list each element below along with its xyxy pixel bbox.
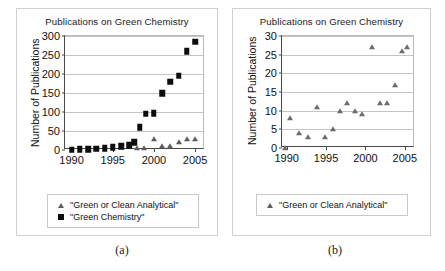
y-axis-tick-label: 15 xyxy=(265,86,277,98)
gridline xyxy=(282,36,413,37)
data-point xyxy=(305,134,311,139)
y-axis-tick-label: 250 xyxy=(42,49,60,61)
figure-container: Publications on Green Chemistry Number o… xyxy=(0,0,445,271)
data-point xyxy=(69,146,75,153)
x-axis-tick xyxy=(365,146,366,150)
chart-panel-a: Publications on Green Chemistry Number o… xyxy=(16,8,218,236)
x-axis-tick xyxy=(405,146,406,150)
data-point xyxy=(168,78,174,85)
y-axis-tick xyxy=(279,54,282,55)
panel-b-legend: "Green or Clean Analytical" xyxy=(256,194,408,216)
triangle-marker-icon xyxy=(56,203,65,208)
data-point xyxy=(287,115,293,120)
data-point xyxy=(118,143,124,150)
legend-label: "Green or Clean Analytical" xyxy=(279,200,387,210)
data-point xyxy=(392,82,398,87)
y-axis-tick xyxy=(62,36,65,37)
x-axis-tick-label: 2005 xyxy=(393,152,417,164)
legend-label: "Green or Clean Analytical" xyxy=(70,200,178,210)
data-point xyxy=(384,100,390,105)
gridline xyxy=(282,92,413,93)
data-point xyxy=(134,145,140,150)
gridline xyxy=(282,55,413,56)
data-point xyxy=(143,111,149,118)
data-point xyxy=(167,143,173,148)
y-axis-tick xyxy=(62,93,65,94)
data-point xyxy=(159,143,165,148)
y-axis-tick xyxy=(62,150,65,151)
y-axis-tick-label: 200 xyxy=(42,68,60,80)
y-axis-tick-label: 50 xyxy=(48,125,60,137)
y-axis-tick-label: 150 xyxy=(42,87,60,99)
y-axis-tick xyxy=(279,92,282,93)
data-point xyxy=(151,136,157,141)
data-point xyxy=(369,44,375,49)
x-axis-tick-label: 1990 xyxy=(59,154,83,166)
gridline xyxy=(65,131,203,132)
panel-a-legend: "Green or Clean Analytical" "Green Chemi… xyxy=(47,194,199,228)
data-point xyxy=(137,124,143,131)
data-point xyxy=(184,136,190,141)
data-point xyxy=(337,108,343,113)
x-axis-tick-label: 2000 xyxy=(142,154,166,166)
y-axis-tick xyxy=(279,129,282,130)
data-point xyxy=(141,145,147,150)
y-axis-tick xyxy=(279,36,282,37)
data-point xyxy=(377,100,383,105)
panel-a-plot-region: 0501001502002503001990199520002005 xyxy=(64,35,204,149)
x-axis-tick-label: 1990 xyxy=(274,152,298,164)
y-axis-tick-label: 5 xyxy=(271,123,277,135)
y-axis-tick xyxy=(62,131,65,132)
data-point xyxy=(314,104,320,109)
panel-b-caption: (b) xyxy=(328,243,342,258)
x-axis-tick xyxy=(326,146,327,150)
legend-item-green-chemistry: "Green Chemistry" xyxy=(56,211,190,223)
data-point xyxy=(282,145,288,150)
data-point xyxy=(176,140,182,145)
y-axis-tick-label: 300 xyxy=(42,30,60,42)
y-axis-tick-label: 10 xyxy=(265,105,277,117)
data-point xyxy=(192,38,198,45)
data-point xyxy=(176,73,182,80)
y-axis-tick-label: 30 xyxy=(265,30,277,42)
data-point xyxy=(192,136,198,141)
x-axis-tick-label: 2005 xyxy=(183,154,207,166)
panel-a-title: Publications on Green Chemistry xyxy=(17,16,217,27)
data-point xyxy=(404,44,410,49)
y-axis-tick xyxy=(62,55,65,56)
data-point xyxy=(344,100,350,105)
panel-a-axes: 0501001502002503001990199520002005 xyxy=(64,35,204,149)
gridline xyxy=(65,74,203,75)
x-axis-tick xyxy=(154,148,155,152)
gridline xyxy=(65,55,203,56)
data-point xyxy=(102,145,108,152)
gridline xyxy=(282,73,413,74)
square-marker-icon xyxy=(56,214,65,220)
x-axis-tick-label: 1995 xyxy=(314,152,338,164)
legend-item-green-or-clean-analytical: "Green or Clean Analytical" xyxy=(56,199,190,211)
gridline xyxy=(65,36,203,37)
panel-b-axes: 0510152025301990199520002005 xyxy=(281,35,414,147)
data-point xyxy=(159,90,165,97)
gridline xyxy=(282,111,413,112)
y-axis-tick-label: 25 xyxy=(265,49,277,61)
data-point xyxy=(94,146,100,153)
chart-panel-b: Publications on Green Chemistry Number o… xyxy=(232,8,431,236)
legend-label: "Green Chemistry" xyxy=(70,212,144,222)
y-axis-tick-label: 20 xyxy=(265,67,277,79)
y-axis-tick xyxy=(279,110,282,111)
data-point xyxy=(296,130,302,135)
data-point xyxy=(151,110,157,117)
data-point xyxy=(359,112,365,117)
data-point xyxy=(322,134,328,139)
x-axis-tick xyxy=(195,148,196,152)
panel-b-y-axis-label: Number of Publications xyxy=(246,36,258,145)
gridline xyxy=(65,93,203,94)
panel-a-y-axis-label: Number of Publications xyxy=(29,38,41,147)
data-point xyxy=(352,108,358,113)
legend-item-green-or-clean-analytical: "Green or Clean Analytical" xyxy=(265,199,399,211)
y-axis-tick xyxy=(62,112,65,113)
x-axis-tick-label: 1995 xyxy=(101,154,125,166)
triangle-marker-icon xyxy=(265,203,274,208)
data-point xyxy=(184,48,190,55)
